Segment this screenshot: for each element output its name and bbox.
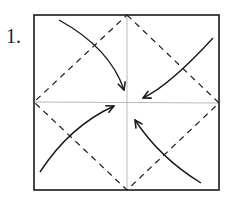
origami-diagram [0, 0, 239, 201]
arrow-bottom-left-icon [40, 106, 114, 172]
arrow-top-left-icon [59, 20, 124, 90]
horizontal-crease [34, 102, 219, 103]
arrow-top-right-icon [143, 38, 213, 98]
